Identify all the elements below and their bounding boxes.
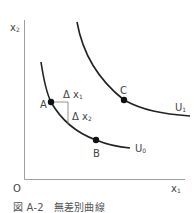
origin-label: O xyxy=(13,184,21,194)
curve-u1 xyxy=(77,22,190,116)
y-axis-label: x2 xyxy=(10,23,20,33)
curve-u1-label: U1 xyxy=(175,103,186,113)
figure-caption: 図 A-2無差別曲線 xyxy=(13,199,105,213)
diagram-canvas xyxy=(0,0,194,213)
figure-number: 図 A-2 xyxy=(13,202,44,213)
delta-x1-label: Δ x1 xyxy=(63,90,83,100)
curve-u0-label: U0 xyxy=(135,144,146,154)
point-c-label: C xyxy=(120,86,127,96)
point-a xyxy=(48,99,54,105)
point-b xyxy=(93,137,99,143)
point-c xyxy=(121,97,127,103)
delta-x2-label: Δ x2 xyxy=(72,112,92,122)
point-b-label: B xyxy=(93,149,100,159)
x-axis-label: x1 xyxy=(171,184,181,194)
figure-title: 無差別曲線 xyxy=(54,202,105,213)
indifference-curve-diagram: x2 x1 O A B C Δ x1 Δ x2 U0 U1 図 A-2無差別曲線 xyxy=(0,0,194,213)
point-a-label: A xyxy=(40,100,47,110)
curve-u0 xyxy=(41,62,130,148)
